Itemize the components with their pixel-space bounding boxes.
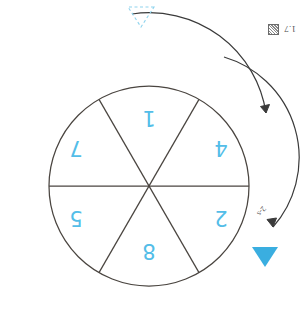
sector-label-upper-right: 5 — [64, 207, 88, 228]
sector-label-bottom: 1 — [137, 107, 161, 128]
sector-label-lower-right: 7 — [64, 137, 88, 158]
figure-canvas: 1.7 8 5 7 1 4 2 — [0, 0, 304, 325]
rotated-figure-group: 1.7 8 5 7 1 4 2 — [0, 0, 304, 325]
inner-rotation-arc — [224, 57, 299, 227]
inner-rotation-arrow-head — [267, 218, 277, 227]
sector-label-top: 8 — [137, 240, 161, 261]
rotation-arrow-arc — [132, 13, 266, 113]
wheel-drawing — [0, 0, 304, 325]
solid-triangle-marker — [252, 247, 278, 267]
sector-label-upper-left: 2 — [209, 207, 233, 228]
rotation-arrow-head — [261, 105, 270, 114]
dashed-triangle-marker — [128, 7, 154, 27]
sector-label-lower-left: 4 — [209, 137, 233, 158]
